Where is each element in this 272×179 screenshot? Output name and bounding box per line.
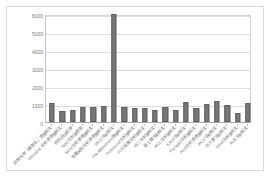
- x-axis-tick: [92, 124, 93, 126]
- bar-slot: [171, 16, 181, 122]
- x-axis-tick: [164, 124, 165, 126]
- bars-group: [47, 16, 249, 122]
- bar-slot: [78, 16, 88, 122]
- x-axis-tick: [144, 124, 145, 126]
- x-axis-tick: [216, 124, 217, 126]
- bar-slot: [99, 16, 109, 122]
- bar-slot: [232, 16, 242, 122]
- x-axis-tick: [61, 124, 62, 126]
- x-axis-tick: [82, 124, 83, 126]
- bar[interactable]: [235, 113, 240, 122]
- chart-frame: 0100020003000400050006000 药物名称「通用名」使用频次l…: [6, 6, 264, 171]
- x-axis-tick: [154, 124, 155, 126]
- bar[interactable]: [194, 108, 199, 122]
- x-axis-tick: [72, 124, 73, 126]
- x-axis-tick: [247, 124, 248, 126]
- bar[interactable]: [70, 110, 75, 122]
- bar[interactable]: [111, 14, 116, 122]
- bar-slot: [68, 16, 78, 122]
- bar[interactable]: [245, 103, 250, 122]
- x-axis-tick: [103, 124, 104, 126]
- chart-plot-wrapper: 0100020003000400050006000 药物名称「通用名」使用频次l…: [7, 7, 265, 172]
- bar[interactable]: [204, 104, 209, 122]
- bar-slot: [88, 16, 98, 122]
- y-axis-tick-label: 3000: [32, 68, 43, 73]
- bar-slot: [47, 16, 57, 122]
- y-axis-tick-label: 1000: [32, 104, 43, 109]
- bar-slot: [57, 16, 67, 122]
- x-axis-tick: [51, 124, 52, 126]
- bar-slot: [181, 16, 191, 122]
- x-axis-tick: [237, 124, 238, 126]
- x-axis-tick: [195, 124, 196, 126]
- x-axis-tick: [226, 124, 227, 126]
- y-axis-tick-label: 0: [40, 122, 43, 127]
- bar[interactable]: [80, 107, 85, 122]
- bar[interactable]: [225, 105, 230, 122]
- x-axis-tick: [185, 124, 186, 126]
- x-axis-tick: [113, 124, 114, 126]
- bar[interactable]: [152, 110, 157, 122]
- bar[interactable]: [173, 110, 178, 122]
- x-axis-tick: [123, 124, 124, 126]
- bar[interactable]: [142, 108, 147, 122]
- y-axis-tick-label: 5000: [32, 32, 43, 37]
- x-axis-tick: [175, 124, 176, 126]
- bar[interactable]: [214, 101, 219, 122]
- y-axis-tick-label: 2000: [32, 86, 43, 91]
- bar[interactable]: [132, 108, 137, 122]
- bar-slot: [129, 16, 139, 122]
- y-axis-tick-label: 6000: [32, 14, 43, 19]
- bar[interactable]: [122, 107, 127, 122]
- bar[interactable]: [60, 111, 65, 122]
- chart-plot-area: 0100020003000400050006000: [45, 15, 251, 123]
- bar[interactable]: [101, 106, 106, 122]
- bar[interactable]: [91, 107, 96, 122]
- bar-slot: [191, 16, 201, 122]
- bar-slot: [222, 16, 232, 122]
- bar-slot: [202, 16, 212, 122]
- x-axis-tick: [134, 124, 135, 126]
- bar[interactable]: [183, 102, 188, 122]
- bar-slot: [119, 16, 129, 122]
- x-axis-tick: [206, 124, 207, 126]
- bar-slot: [140, 16, 150, 122]
- bar[interactable]: [163, 107, 168, 122]
- y-axis-tick-label: 4000: [32, 50, 43, 55]
- bar[interactable]: [49, 103, 54, 122]
- bar-slot: [150, 16, 160, 122]
- bar-slot: [160, 16, 170, 122]
- bar-slot: [212, 16, 222, 122]
- bar-slot: [243, 16, 253, 122]
- bar-slot: [109, 16, 119, 122]
